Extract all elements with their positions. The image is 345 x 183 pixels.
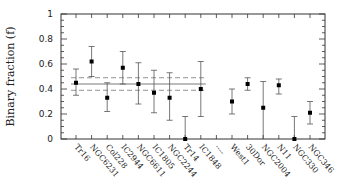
- data-point-marker: [183, 137, 187, 141]
- x-category-label: Tr16: [72, 143, 91, 164]
- data-point-marker: [90, 60, 94, 64]
- data-point-marker: [230, 100, 234, 104]
- y-axis-title: Binary fraction (f): [4, 26, 17, 126]
- plot-axes: [61, 14, 325, 139]
- data-point-marker: [292, 137, 296, 141]
- data-point-marker: [277, 83, 281, 87]
- data-point-marker: [136, 82, 140, 86]
- data-point-marker: [261, 106, 265, 110]
- data-point-marker: [74, 81, 78, 85]
- y-tick-label: 0: [47, 134, 53, 144]
- y-tick-label: 0.4: [39, 84, 54, 94]
- data-point-marker: [105, 96, 109, 100]
- plot-frame: [61, 14, 325, 139]
- data-points: [73, 47, 313, 142]
- data-point-marker: [199, 87, 203, 91]
- y-tick-label: 1: [47, 9, 53, 19]
- data-point-marker: [152, 91, 156, 95]
- y-tick-label: 0.8: [39, 34, 54, 44]
- y-tick-label: 0.2: [39, 109, 53, 119]
- data-point-marker: [168, 96, 172, 100]
- data-point-marker: [308, 111, 312, 115]
- binary-fraction-chart: 00.20.40.60.81Tr16NGC6231Col228IC2944NGC…: [0, 0, 345, 183]
- y-tick-label: 0.6: [39, 59, 54, 69]
- data-point-marker: [246, 82, 250, 86]
- data-point-marker: [121, 66, 125, 70]
